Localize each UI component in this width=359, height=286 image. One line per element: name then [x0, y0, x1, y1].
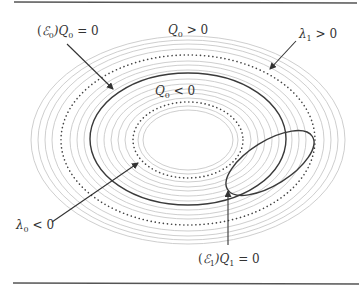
label-e0-q0: (ℰ0)Q0 = 0 — [37, 24, 99, 40]
label-q0-positive: Q0 > 0 — [168, 23, 208, 39]
e1-tilted-ellipse — [216, 118, 324, 208]
contour-diagram-figure: (ℰ0)Q0 = 0 Q0 > 0 Q0 < 0 λ1 > 0 λ0 < 0 (… — [0, 0, 359, 286]
contour-rings — [31, 36, 345, 244]
bottom-rule — [13, 283, 359, 284]
inner-dotted-ring — [133, 102, 243, 178]
arrow-lambda1 — [270, 41, 296, 69]
label-lambda0: λ0 < 0 — [15, 218, 54, 234]
top-rule — [14, 2, 357, 3]
outer-dotted-ring — [61, 55, 315, 225]
label-lambda1: λ1 > 0 — [298, 27, 337, 43]
label-e1-q1: (ℰ1)Q1 = 0 — [198, 252, 260, 268]
label-q0-negative: Q0 < 0 — [155, 84, 195, 100]
